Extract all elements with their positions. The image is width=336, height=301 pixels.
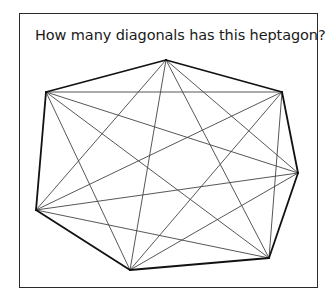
diagonal-1-4: [130, 92, 282, 270]
vertex-bottom-right: [268, 257, 270, 259]
diagonal-0-2: [166, 60, 298, 173]
edge-2-3: [269, 173, 298, 258]
diagonals-group: [36, 60, 298, 270]
heptagon-diagram: [0, 0, 336, 301]
diagonal-2-4: [130, 173, 298, 270]
diagonal-3-5: [36, 210, 269, 258]
edge-3-4: [130, 258, 269, 270]
vertex-upper-right: [281, 91, 283, 93]
diagonal-0-4: [130, 60, 166, 270]
vertex-lower-left: [35, 209, 37, 211]
diagonal-3-6: [46, 92, 269, 258]
edge-5-6: [36, 92, 46, 210]
vertex-right: [297, 172, 299, 174]
vertex-bottom-left: [129, 269, 131, 271]
vertex-upper-left: [45, 91, 47, 93]
diagonal-2-6: [46, 92, 298, 173]
diagonal-1-3: [269, 92, 282, 258]
edge-0-1: [166, 60, 282, 92]
vertex-top: [165, 59, 167, 61]
diagonal-0-5: [36, 60, 166, 210]
edge-6-0: [46, 60, 166, 92]
